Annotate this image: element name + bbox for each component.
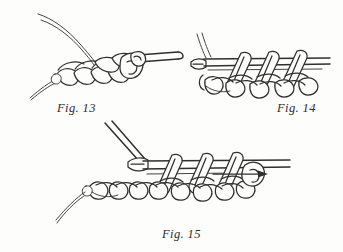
- yarn-bar-upper: [143, 160, 290, 161]
- figure-page: .ln { fill:none; stroke:#2f2f2f; stroke-…: [0, 0, 343, 252]
- figure-caption-13: Fig. 13: [57, 101, 96, 116]
- crochet-hook-shaft: [105, 121, 145, 161]
- yarn-bar-lower: [143, 167, 290, 169]
- direction-arrow: [213, 171, 268, 178]
- figure-caption-15: Fig. 15: [162, 227, 201, 242]
- figure-caption-14: Fig. 14: [277, 101, 316, 116]
- crochet-hook: [131, 52, 183, 66]
- fig-13-illustration: [30, 14, 183, 100]
- fig-15-illustration: [56, 121, 290, 223]
- yarn-strand-upper: [197, 33, 211, 58]
- figures-illustration: .ln { fill:none; stroke:#2f2f2f; stroke-…: [0, 0, 343, 252]
- edge-loop: [199, 75, 204, 90]
- yarn-strand-lower: [41, 20, 94, 65]
- yarn-tail: [56, 186, 92, 223]
- fig-14-illustration: [191, 33, 330, 98]
- hook-tip: [191, 59, 206, 69]
- chain-stitch-row: [89, 181, 254, 201]
- yarn-tail: [30, 74, 61, 100]
